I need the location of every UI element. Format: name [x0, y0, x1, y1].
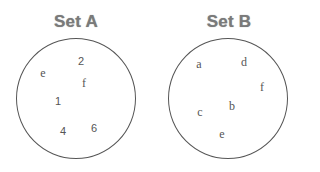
set-a-element: f [77, 76, 91, 90]
set-b-element: f [255, 80, 269, 94]
set-a-element: 1 [51, 94, 65, 108]
set-b-title: Set B [179, 12, 279, 32]
set-a-element: 4 [56, 124, 70, 138]
set-a-element: e [36, 66, 50, 80]
set-b-element: e [215, 127, 229, 141]
set-b-element: b [225, 99, 239, 113]
set-a-element: 2 [74, 54, 88, 68]
set-b-element: d [237, 55, 251, 69]
set-b-element: c [193, 105, 207, 119]
set-a-title: Set A [26, 12, 126, 32]
set-a-element: 6 [87, 121, 101, 135]
set-b-element: a [192, 57, 206, 71]
